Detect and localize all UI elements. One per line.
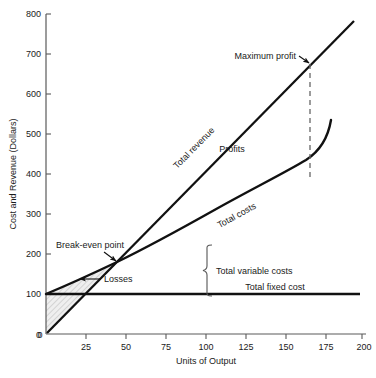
x-axis: 0 25 50 75 100 125 150 175 200 Units of …	[37, 330, 371, 366]
y-tick-700: 700	[26, 49, 41, 59]
maximum-profit-arrow	[299, 56, 309, 63]
total-variable-costs-brace	[203, 245, 212, 296]
break-even-chart: 800 700 600 500 400 300 200 100 0 Cost a…	[0, 0, 376, 378]
x-tick-75: 75	[161, 342, 171, 352]
x-tick-200: 200	[356, 342, 371, 352]
total-revenue-line	[47, 21, 354, 333]
x-tick-175: 175	[318, 342, 333, 352]
break-even-point-arrow	[104, 252, 116, 261]
x-tick-100: 100	[198, 342, 213, 352]
y-tick-200: 200	[26, 249, 41, 259]
y-tick-500: 500	[26, 129, 41, 139]
y-tick-300: 300	[26, 209, 41, 219]
x-tick-0: 0	[37, 330, 42, 340]
x-tick-125: 125	[238, 342, 253, 352]
break-even-point-annotation: Break-even point	[56, 240, 125, 261]
losses-label: Losses	[104, 274, 133, 284]
maximum-profit-label: Maximum profit	[234, 51, 296, 61]
total-variable-costs-label: Total variable costs	[216, 266, 293, 276]
y-axis: 800 700 600 500 400 300 200 100 0 Cost a…	[8, 9, 51, 340]
y-tick-100: 100	[26, 289, 41, 299]
profits-label: Profits	[219, 144, 245, 154]
y-tick-600: 600	[26, 89, 41, 99]
total-revenue-label: Total revenue	[171, 125, 216, 171]
maximum-profit-annotation: Maximum profit	[234, 51, 309, 63]
y-tick-400: 400	[26, 169, 41, 179]
x-axis-ticks	[86, 334, 362, 339]
x-tick-50: 50	[121, 342, 131, 352]
y-axis-ticks	[46, 14, 51, 294]
break-even-point-label: Break-even point	[56, 240, 125, 250]
x-tick-25: 25	[81, 342, 91, 352]
x-tick-150: 150	[278, 342, 293, 352]
chart-canvas: 800 700 600 500 400 300 200 100 0 Cost a…	[0, 0, 376, 378]
y-axis-title: Cost and Revenue (Dollars)	[8, 118, 18, 229]
y-tick-800: 800	[26, 9, 41, 19]
x-axis-title: Units of Output	[176, 356, 237, 366]
total-fixed-cost-label: Total fixed cost	[245, 282, 305, 292]
